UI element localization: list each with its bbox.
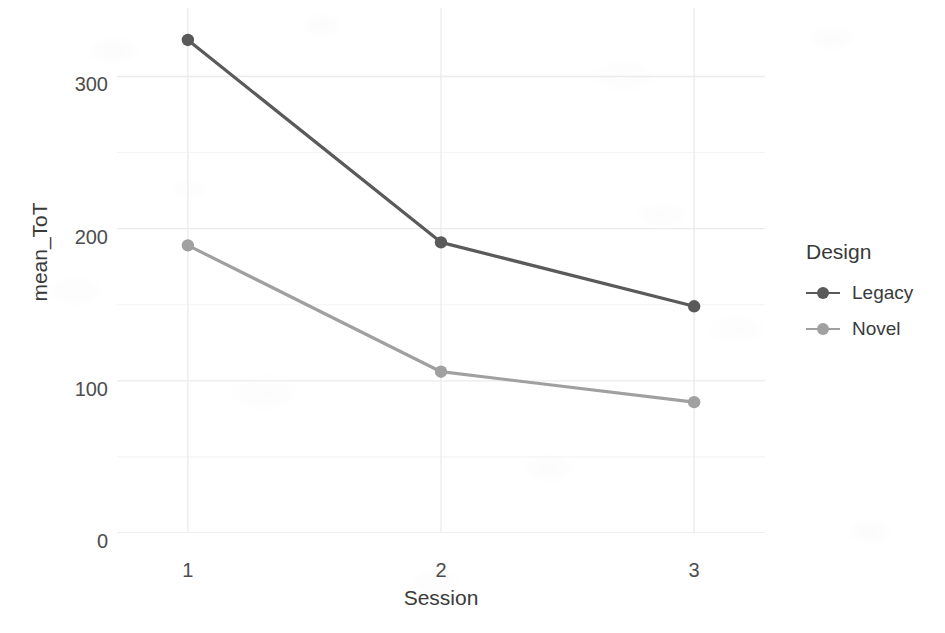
legend-item-legacy[interactable]: Legacy [806, 278, 941, 308]
x-tick-label-1: 1 [158, 560, 218, 580]
data-point-novel-1 [182, 239, 194, 251]
legend-key-novel-icon [806, 318, 840, 340]
legend-label: Legacy [852, 282, 913, 304]
y-tick-label-200: 200 [48, 227, 108, 247]
y-axis-title: mean_ToT [28, 152, 52, 352]
plot-area [117, 8, 765, 533]
data-point-legacy-2 [435, 236, 447, 248]
data-point-legacy-3 [688, 300, 700, 312]
legend-item-novel[interactable]: Novel [806, 314, 941, 344]
x-tick-label-2: 2 [411, 560, 471, 580]
x-axis-title: Session [117, 586, 765, 610]
legend-title: Design [806, 240, 941, 264]
y-tick-label-300: 300 [48, 74, 108, 94]
x-axis-tick-labels: 123 [117, 560, 765, 586]
legend-key-dot [817, 323, 829, 335]
legend-label: Novel [852, 318, 901, 340]
legend-key-legacy-icon [806, 282, 840, 304]
y-tick-label-0: 0 [48, 531, 108, 551]
legend: Design LegacyNovel [806, 240, 941, 350]
x-tick-label-3: 3 [664, 560, 724, 580]
legend-items: LegacyNovel [806, 278, 941, 344]
chart-figure: 0100200300 123 Session mean_ToT Design L… [0, 0, 945, 633]
legend-key-dot [817, 287, 829, 299]
plot-panel [117, 8, 765, 533]
data-point-novel-2 [435, 365, 447, 377]
y-tick-label-100: 100 [48, 379, 108, 399]
data-point-novel-3 [688, 396, 700, 408]
vertical-gridlines [188, 8, 694, 533]
data-point-legacy-1 [182, 34, 194, 46]
